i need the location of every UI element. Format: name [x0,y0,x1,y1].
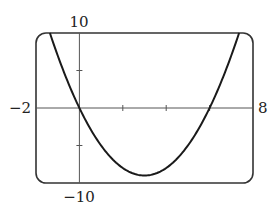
ymin-label: −10 [63,188,95,206]
xmax-label: 8 [258,99,268,117]
ymax-label: 10 [69,13,88,31]
xmin-label: −2 [9,99,31,117]
graph-window: 10 −10 −2 8 [0,0,274,211]
function-curve [50,33,239,176]
